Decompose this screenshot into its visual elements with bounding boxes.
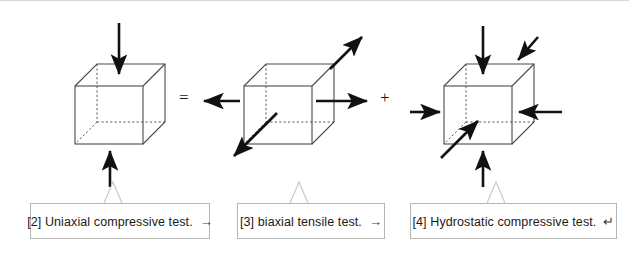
biaxial-tension-cube	[204, 37, 367, 156]
cube-arrows	[204, 37, 367, 156]
callout-box-biaxial[interactable]: [3] biaxial tensile test.→	[237, 203, 385, 239]
callout-label-text-biaxial: [3] biaxial tensile test.	[240, 215, 362, 229]
figure-container: = + [2] Uniaxial compressive test.→ [3] …	[0, 0, 629, 255]
right-arrow-pilcrow-icon: →	[362, 214, 382, 229]
callout-label-text-hydrostatic: [4] Hydrostatic compressive test.	[412, 215, 596, 229]
carriage-return-pilcrow-icon: ↵	[596, 214, 614, 229]
cube-visible-edges	[75, 64, 165, 144]
equals-operator: =	[179, 89, 189, 106]
hydrostatic-compression-cube	[410, 26, 562, 187]
plus-operator: +	[380, 89, 390, 106]
callout-box-hydrostatic[interactable]: [4] Hydrostatic compressive test.↵	[410, 203, 617, 239]
cube-arrows	[110, 23, 119, 187]
callout-label-text-uniaxial: [2] Uniaxial compressive test.	[27, 215, 193, 229]
callout-leader-4	[487, 182, 505, 203]
callout-label-biaxial: [3] biaxial tensile test.→	[231, 214, 391, 229]
callout-leader-3	[290, 182, 308, 203]
cube-hidden-edges	[444, 64, 534, 144]
callout-leaders	[104, 182, 505, 203]
right-arrow-pilcrow-icon: →	[193, 214, 213, 229]
cube-arrows	[410, 26, 562, 187]
arrow-depth-front-out	[234, 113, 277, 156]
cube-hidden-edges	[75, 64, 165, 144]
callout-box-uniaxial[interactable]: [2] Uniaxial compressive test.→	[30, 203, 210, 239]
callout-label-hydrostatic: [4] Hydrostatic compressive test.↵	[403, 214, 623, 229]
arrow-depth-back-out	[330, 37, 362, 69]
uniaxial-compression-cube	[75, 23, 165, 187]
arrow-depth-front-in	[441, 121, 478, 158]
arrow-depth-back-in	[518, 37, 538, 60]
callout-leader-2	[104, 182, 122, 203]
callout-label-uniaxial: [2] Uniaxial compressive test.→	[18, 214, 222, 229]
cube-visible-edges	[444, 64, 534, 144]
